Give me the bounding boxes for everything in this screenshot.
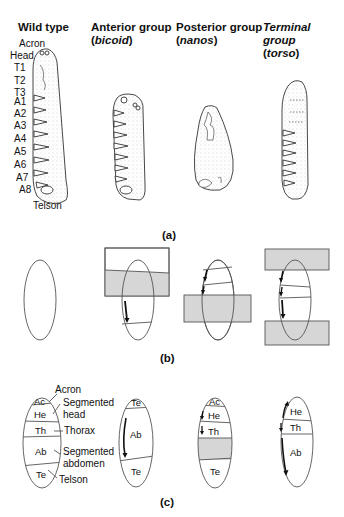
region-th: Th [208,426,219,437]
region-ab: Ab [290,447,302,458]
region-he: He [208,410,220,421]
callout-thorax: Thorax [64,425,95,436]
region-th: Th [35,425,46,436]
region-th: Th [290,422,301,433]
callout-segmented-abdomen-1: Segmented [63,446,114,457]
callout-telson: Telson [59,474,88,485]
region-ab: Ab [35,446,47,457]
region-te: Te [36,469,46,480]
panel-c-diagram [0,0,344,517]
region-te-top: Te [131,397,141,408]
region-he: He [290,406,302,417]
region-te-bottom: Te [131,466,141,477]
callout-acron: Acron [55,384,81,395]
region-ac: Ac [34,396,45,407]
callout-segmented-abdomen-2: abdomen [63,458,105,469]
region-ab: Ab [130,429,142,440]
callout-segmented-head-1: Segmented [63,397,114,408]
panel-label-c: (c) [160,496,174,508]
region-he: He [34,409,46,420]
region-te: Te [210,466,220,477]
region-ac: Ac [209,396,220,407]
callout-segmented-head-2: head [63,409,85,420]
